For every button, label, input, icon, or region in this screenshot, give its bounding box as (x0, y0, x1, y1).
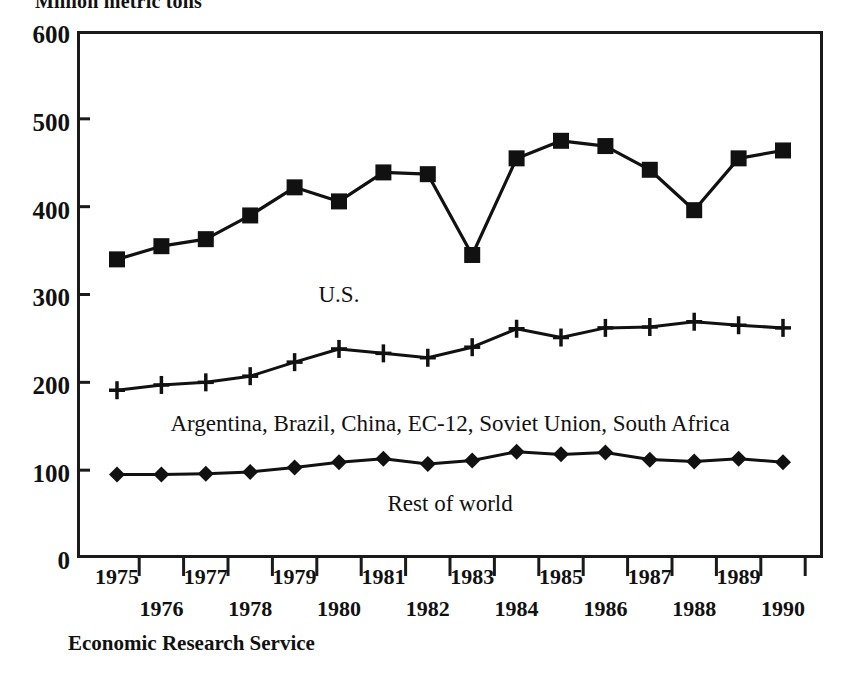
x-tick-label-1978: 1978 (205, 598, 295, 620)
x-tick-label-1985: 1985 (516, 566, 606, 588)
x-tick-label-1981: 1981 (338, 566, 428, 588)
x-tick-label-1982: 1982 (383, 598, 473, 620)
x-tick-label-1987: 1987 (605, 566, 695, 588)
x-tick-label-1988: 1988 (649, 598, 739, 620)
x-tick-label-1986: 1986 (560, 598, 650, 620)
chart-container: Million metric tons 600 500 400 300 200 … (0, 0, 849, 680)
series-square (109, 133, 791, 268)
x-tick-label-1976: 1976 (116, 598, 206, 620)
x-tick-label-1989: 1989 (694, 566, 784, 588)
series-label-group: Argentina, Brazil, China, EC-12, Soviet … (171, 412, 730, 435)
source-note: Economic Research Service (68, 631, 315, 656)
series-diamond (109, 444, 791, 483)
x-tick-label-1975: 1975 (72, 566, 162, 588)
x-tick-label-1979: 1979 (250, 566, 340, 588)
y-axis-ticks (77, 119, 90, 470)
series-label-rest: Rest of world (388, 492, 513, 515)
series-label-us: U.S. (319, 283, 360, 306)
x-tick-label-1983: 1983 (427, 566, 517, 588)
x-tick-label-1980: 1980 (294, 598, 384, 620)
x-tick-label-1990: 1990 (738, 598, 828, 620)
x-tick-label-1977: 1977 (161, 566, 251, 588)
series-plus (109, 313, 791, 400)
x-tick-label-1984: 1984 (472, 598, 562, 620)
